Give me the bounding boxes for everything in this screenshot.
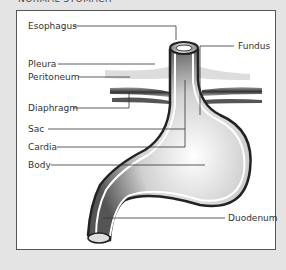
label-diaphragm: Diaphragm: [28, 103, 78, 113]
label-peritoneum: Peritoneum: [28, 72, 80, 82]
stomach-diagram: Esophagus Pleura Peritoneum Diaphragm Sa…: [0, 0, 286, 270]
label-esophagus: Esophagus: [28, 21, 77, 31]
label-pleura: Pleura: [28, 59, 56, 69]
leader-esophagus: [73, 26, 176, 40]
label-body: Body: [28, 160, 51, 170]
label-sac: Sac: [28, 124, 44, 134]
label-fundus: Fundus: [238, 41, 271, 51]
label-duodenum: Duodenum: [228, 213, 278, 223]
label-cardia: Cardia: [28, 142, 57, 152]
